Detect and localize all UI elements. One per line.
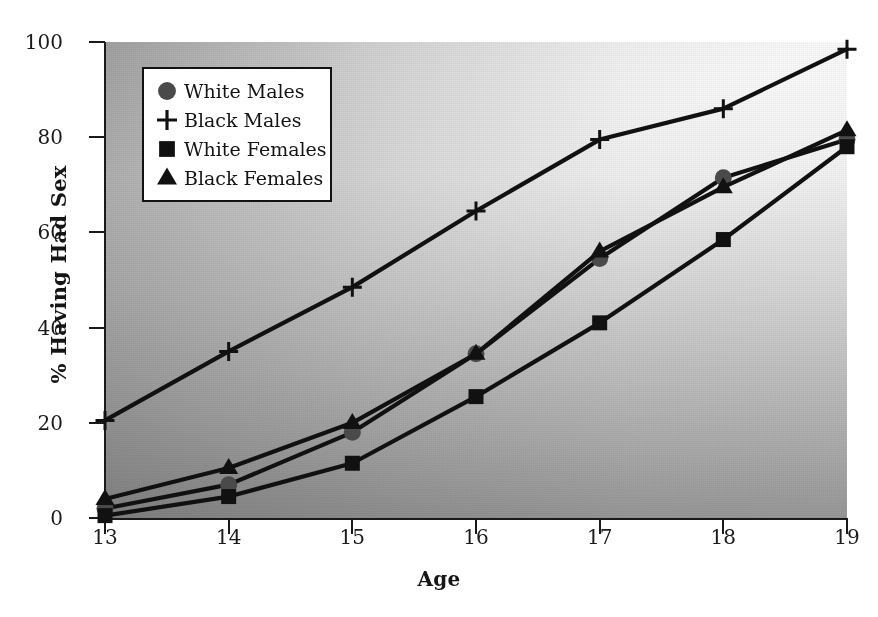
- legend-item-label: Black Females: [180, 167, 323, 189]
- plus-marker: [343, 278, 362, 297]
- legend-item-label: White Males: [180, 80, 305, 102]
- y-tick-mark: [89, 136, 105, 138]
- square-marker: [469, 389, 484, 404]
- y-tick-label: 0: [17, 508, 63, 528]
- plus-marker: [714, 99, 733, 118]
- plus-marker: [590, 130, 609, 149]
- x-tick-label: 13: [75, 527, 135, 547]
- triangle-marker: [157, 167, 177, 184]
- x-tick-label: 16: [446, 527, 506, 547]
- plus-marker: [96, 411, 115, 430]
- square-marker: [159, 141, 175, 157]
- x-tick-label: 18: [693, 527, 753, 547]
- triangle-marker: [838, 120, 857, 136]
- square-marker: [716, 232, 731, 247]
- x-tick-label: 15: [322, 527, 382, 547]
- circle-icon: [154, 78, 180, 104]
- chart-figure: 020406080100 13141516171819 White MalesB…: [0, 0, 878, 617]
- plus-marker: [838, 40, 857, 59]
- plus-icon: [154, 107, 180, 133]
- legend-item-black-males: Black Males: [154, 105, 320, 134]
- y-tick-label: 100: [17, 32, 63, 52]
- square-marker: [98, 508, 113, 523]
- x-tick-label: 14: [199, 527, 259, 547]
- y-tick-mark: [89, 41, 105, 43]
- y-tick-mark: [89, 231, 105, 233]
- plus-marker: [467, 201, 486, 220]
- plus-marker: [219, 342, 238, 361]
- y-tick-mark: [89, 327, 105, 329]
- x-axis-title: Age: [0, 567, 878, 591]
- square-marker: [345, 456, 360, 471]
- legend-item-label: White Females: [180, 138, 327, 160]
- square-marker: [592, 315, 607, 330]
- circle-marker: [158, 82, 176, 100]
- triangle-icon: [154, 165, 180, 191]
- square-icon: [154, 136, 180, 162]
- x-tick-label: 19: [817, 527, 877, 547]
- legend-item-white-females: White Females: [154, 134, 320, 163]
- legend-item-black-females: Black Females: [154, 163, 320, 192]
- square-marker: [840, 139, 855, 154]
- square-marker: [221, 489, 236, 504]
- legend-item-white-males: White Males: [154, 76, 320, 105]
- y-tick-mark: [89, 422, 105, 424]
- plus-marker: [157, 110, 177, 130]
- legend-item-label: Black Males: [180, 109, 301, 131]
- y-axis-title: % Having Had Sex: [46, 125, 71, 425]
- chart-legend: White MalesBlack MalesWhite FemalesBlack…: [142, 67, 332, 202]
- x-tick-label: 17: [570, 527, 630, 547]
